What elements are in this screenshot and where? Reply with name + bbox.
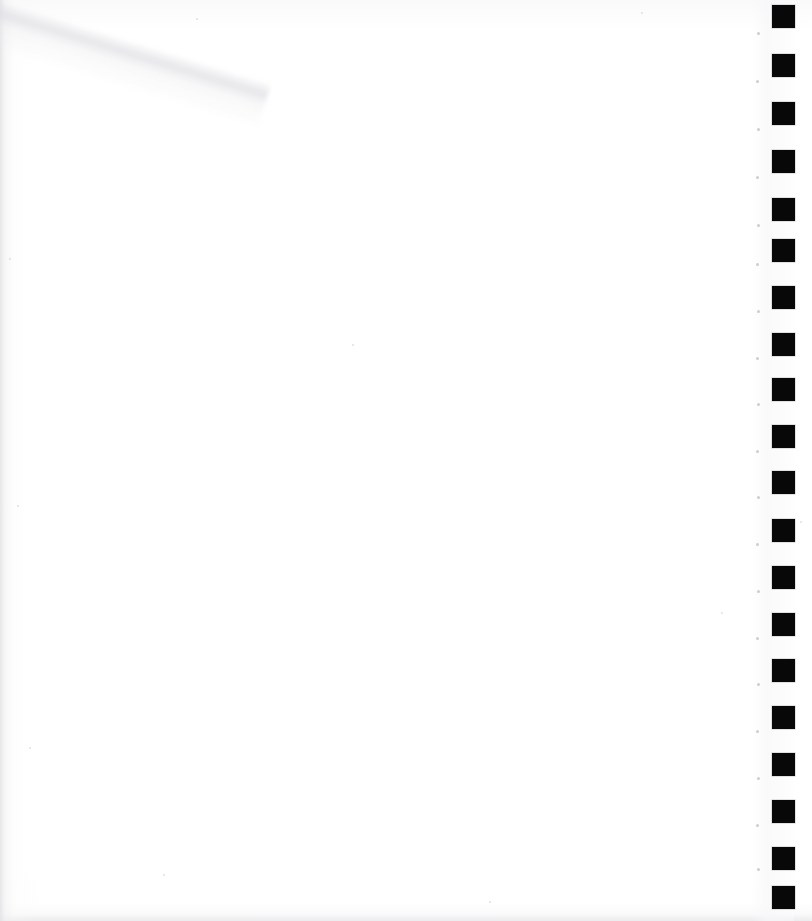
register-mark-1: [772, 5, 795, 28]
guide-dot-2: [756, 80, 759, 83]
register-mark-8: [772, 333, 795, 356]
register-mark-14: [772, 613, 795, 636]
register-mark-9: [772, 378, 795, 401]
register-mark-2: [772, 54, 795, 77]
register-mark-5: [772, 198, 795, 221]
scan-speck-10: [489, 901, 491, 903]
register-mark-12: [772, 519, 795, 542]
register-mark-17: [772, 753, 795, 776]
register-mark-4: [772, 150, 795, 173]
scan-speck-1: [196, 18, 198, 20]
guide-dot-11: [757, 496, 760, 499]
scan-speck-9: [163, 874, 165, 876]
register-mark-18: [772, 800, 795, 823]
scan-speck-5: [17, 505, 19, 507]
scan-speck-4: [352, 344, 354, 346]
guide-dot-8: [756, 357, 759, 360]
register-mark-13: [772, 566, 795, 589]
scan-speck-6: [800, 521, 802, 523]
guide-dot-14: [756, 637, 759, 640]
register-mark-7: [772, 286, 795, 309]
register-mark-15: [772, 659, 795, 682]
guide-dot-19: [757, 868, 760, 871]
guide-dot-7: [757, 310, 760, 313]
guide-dot-4: [756, 176, 759, 179]
register-mark-3: [772, 102, 795, 125]
page-body-text: [40, 40, 730, 880]
scan-speck-7: [721, 612, 723, 614]
scan-speck-8: [29, 747, 31, 749]
scan-speck-3: [9, 258, 11, 260]
guide-dot-18: [756, 824, 759, 827]
guide-dot-3: [757, 128, 760, 131]
scan-speck-2: [641, 12, 643, 14]
guide-dot-16: [756, 730, 759, 733]
guide-dot-13: [757, 590, 760, 593]
register-mark-19: [772, 847, 795, 870]
register-mark-strip: [772, 0, 795, 921]
guide-dot-15: [757, 683, 760, 686]
guide-dot-12: [756, 543, 759, 546]
guide-dot-9: [757, 403, 760, 406]
guide-dot-10: [756, 450, 759, 453]
register-mark-20: [772, 886, 795, 909]
register-mark-11: [772, 471, 795, 494]
guide-dot-17: [757, 777, 760, 780]
register-mark-6: [772, 239, 795, 262]
guide-dot-1: [757, 32, 760, 35]
scanned-page: [0, 0, 812, 921]
guide-dot-6: [756, 263, 759, 266]
register-mark-10: [772, 425, 795, 448]
guide-dot-5: [757, 224, 760, 227]
register-mark-16: [772, 706, 795, 729]
